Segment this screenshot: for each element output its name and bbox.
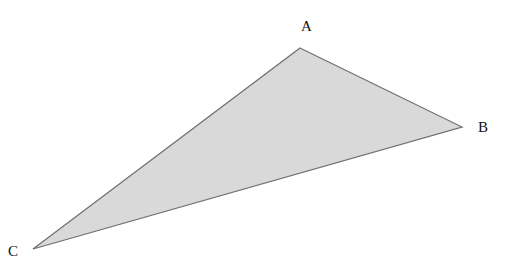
vertex-label-c: C: [8, 243, 18, 259]
vertex-label-b: B: [478, 119, 488, 135]
vertex-label-a: A: [301, 18, 312, 34]
triangle-diagram: A B C: [0, 0, 505, 272]
triangle-abc: [33, 48, 462, 249]
